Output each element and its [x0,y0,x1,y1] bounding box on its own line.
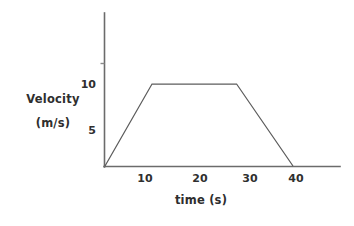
velocity-data-line [105,84,293,166]
y-tick-label-10: 10 [74,78,96,91]
x-tick-label-40: 40 [281,172,311,185]
velocity-time-chart: Velocity (m/s) 10 5 10 20 30 40 time (s) [0,0,354,226]
x-axis-label: time (s) [155,193,247,207]
y-tick-label-5: 5 [74,124,96,137]
x-tick-label-30: 30 [235,172,265,185]
x-tick-label-20: 20 [185,172,215,185]
x-tick-label-10: 10 [130,172,160,185]
y-axis-label-line1: Velocity [18,92,88,106]
